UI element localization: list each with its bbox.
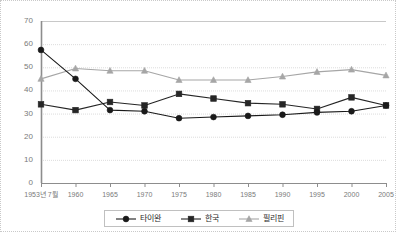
data-point-marker: [188, 216, 194, 222]
y-axis-tick-label: 70: [11, 17, 33, 25]
legend-label: 필리핀: [263, 214, 284, 223]
x-axis-tick-label: 1990: [266, 191, 300, 199]
x-axis-tick-label: 1975: [162, 191, 196, 199]
data-point-marker: [142, 103, 148, 109]
y-axis-tick-label: 30: [11, 110, 33, 118]
data-point-marker: [349, 108, 355, 114]
data-point-marker: [73, 76, 79, 82]
legend-item-triangle[interactable]: 필리핀: [238, 214, 284, 224]
x-axis-tick-label: 1995: [300, 191, 334, 199]
y-axis-tick-label: 50: [11, 63, 33, 71]
x-axis-tick-label: 1960: [59, 191, 93, 199]
y-axis-tick-label: 40: [11, 86, 33, 94]
x-axis-tick-label: 2000: [335, 191, 369, 199]
chart-container: 010203040506070 1953년 7월1960196519701975…: [0, 0, 396, 232]
series-square: [38, 91, 389, 113]
x-axis-tick-label: 1980: [197, 191, 231, 199]
data-point-marker: [176, 115, 182, 121]
data-point-marker: [349, 95, 355, 101]
legend-label: 한국: [205, 214, 219, 223]
series-line: [41, 50, 386, 118]
data-point-marker: [123, 216, 129, 222]
data-point-marker: [38, 47, 44, 53]
chart-legend: 타이완한국필리핀: [104, 210, 294, 227]
data-point-marker: [211, 96, 217, 102]
x-axis-tick-label: 1970: [128, 191, 162, 199]
x-axis-tick-label: 1985: [231, 191, 265, 199]
y-axis-tick-label: 0: [11, 179, 33, 187]
data-point-marker: [142, 108, 148, 114]
data-point-marker: [107, 99, 113, 105]
data-point-marker: [280, 102, 286, 108]
series-circle: [38, 47, 389, 121]
data-point-marker: [280, 112, 286, 118]
y-axis-tick-label: 10: [11, 156, 33, 164]
x-axis-tick-label: 1965: [93, 191, 127, 199]
data-point-marker: [245, 113, 251, 119]
y-axis-tick-label: 20: [11, 133, 33, 141]
legend-swatch-circle-icon: [115, 214, 137, 224]
x-axis-tick-label: 2005: [369, 191, 396, 199]
legend-item-square[interactable]: 한국: [180, 214, 219, 224]
data-point-marker: [38, 102, 44, 108]
data-point-marker: [383, 103, 389, 109]
data-point-marker: [176, 91, 182, 97]
legend-swatch-triangle-icon: [238, 214, 260, 224]
legend-swatch-square-icon: [180, 214, 202, 224]
data-point-marker: [211, 114, 217, 120]
y-axis-tick-label: 60: [11, 40, 33, 48]
data-point-marker: [314, 110, 320, 116]
data-point-marker: [73, 107, 79, 113]
data-point-marker: [245, 100, 251, 106]
data-point-marker: [107, 107, 113, 113]
legend-item-circle[interactable]: 타이완: [115, 214, 161, 224]
legend-label: 타이완: [140, 214, 161, 223]
